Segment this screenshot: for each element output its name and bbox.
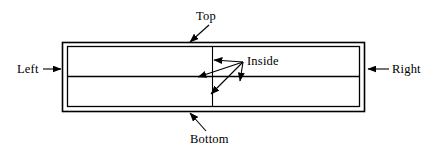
label-inside: Inside bbox=[247, 55, 279, 68]
diagram-canvas: Top Bottom Left Right Inside bbox=[0, 0, 437, 156]
top-leader-arrow bbox=[190, 25, 209, 42]
label-left: Left bbox=[17, 63, 39, 76]
inside-leader-arrow-1 bbox=[214, 60, 243, 62]
label-top: Top bbox=[196, 10, 216, 23]
bottom-leader-arrow bbox=[190, 113, 206, 131]
label-bottom: Bottom bbox=[190, 133, 229, 146]
label-right: Right bbox=[392, 63, 421, 76]
